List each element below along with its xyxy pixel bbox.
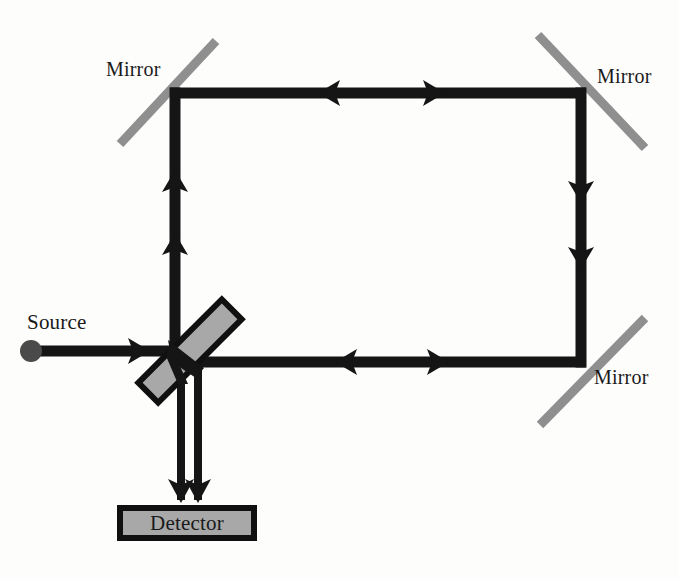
beam-path-group (40, 88, 587, 501)
label-mirror-bottom-right: Mirror (594, 366, 649, 389)
label-detector: Detector (117, 505, 257, 541)
source-dot (20, 340, 42, 362)
beam-right-vertical (576, 88, 587, 368)
beam-left-vertical (170, 88, 181, 360)
diagram-canvas: Mirror Mirror Mirror Source Detector (0, 0, 678, 579)
label-source: Source (27, 310, 87, 335)
beam-output-right (194, 356, 202, 500)
interferometer-diagram (0, 0, 678, 579)
label-mirror-top-left: Mirror (106, 58, 161, 81)
beam-bottom-horizontal (190, 357, 586, 368)
beam-top-horizontal (170, 88, 586, 99)
label-mirror-top-right: Mirror (597, 65, 652, 88)
